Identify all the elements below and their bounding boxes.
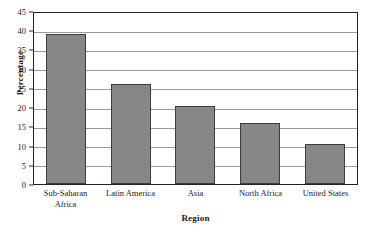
y-axis-tick-label: 10 — [18, 142, 27, 152]
plot-area — [33, 12, 358, 185]
y-axis-tick-label: 15 — [18, 122, 27, 132]
y-axis-tick-group: 051015202530354045 — [0, 0, 30, 233]
bar-slot — [228, 13, 293, 184]
bar[interactable] — [111, 84, 151, 184]
bar-slot — [99, 13, 164, 184]
bar[interactable] — [305, 144, 345, 184]
bar-slot — [292, 13, 357, 184]
bar[interactable] — [240, 123, 280, 185]
bar-chart-figure: Percentage 051015202530354045 Sub-Sahara… — [0, 0, 370, 233]
x-axis-tick-label: United States — [293, 188, 358, 210]
x-axis-tick-label: Asia — [163, 188, 228, 210]
x-axis-title: Region — [33, 213, 358, 223]
y-axis-tick-label: 25 — [18, 84, 27, 94]
y-axis-tick-label: 0 — [22, 180, 26, 190]
bar[interactable] — [46, 34, 86, 184]
x-axis-tick-label: Sub-Saharan Africa — [33, 188, 98, 210]
y-axis-tick-label: 5 — [22, 161, 26, 171]
y-axis-tick-label: 35 — [18, 45, 27, 55]
x-axis-tick-label: Latin America — [98, 188, 163, 210]
x-axis-tick-group: Sub-Saharan AfricaLatin AmericaAsiaNorth… — [33, 188, 358, 210]
y-axis-tick-label: 30 — [18, 65, 27, 75]
y-axis-tick-label: 45 — [18, 7, 27, 17]
bar-slot — [34, 13, 99, 184]
y-axis-tick-label: 40 — [18, 26, 27, 36]
bar[interactable] — [175, 106, 215, 184]
y-axis-tick-label: 20 — [18, 103, 27, 113]
bar-slot — [163, 13, 228, 184]
x-axis-tick-label: North Africa — [228, 188, 293, 210]
bar-group — [34, 13, 357, 184]
